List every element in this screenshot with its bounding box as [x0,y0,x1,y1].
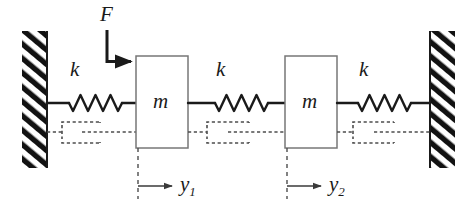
damper-left [47,122,136,143]
mass-spring-damper-diagram: F k k k m m y1 y2 [0,0,475,218]
spring-right [337,95,430,111]
force-arrow [107,30,131,62]
mass-right-label: m [302,91,317,112]
displacement-guide-1 [138,148,172,199]
displacement-2-subscript: 2 [338,184,345,199]
spring-middle-label: k [216,59,225,80]
force-label: F [100,4,113,25]
spring-right-label: k [359,59,368,80]
damper-middle [188,122,285,143]
diagram-canvas [0,0,475,218]
displacement-2-symbol: y [329,172,338,196]
damper-right [337,122,430,143]
spring-left-label: k [70,59,79,80]
displacement-guide-2 [287,148,321,199]
wall-right [430,31,455,168]
wall-left [22,31,47,168]
spring-left [47,95,136,111]
displacement-1-label: y1 [180,174,196,195]
spring-middle [188,95,285,111]
displacement-1-symbol: y [180,172,189,196]
mass-left-label: m [153,91,168,112]
displacement-1-subscript: 1 [189,184,196,199]
displacement-2-label: y2 [329,174,345,195]
